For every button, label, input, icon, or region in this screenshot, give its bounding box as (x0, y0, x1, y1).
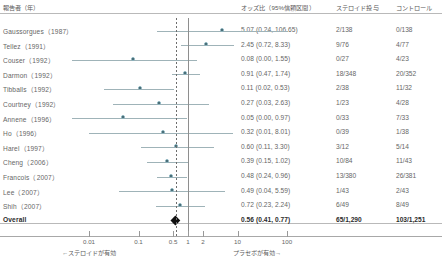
axis-tick-label: 0.01 (83, 238, 95, 245)
effect-marker (170, 188, 174, 192)
forest-plot: 報告者（年） オッズ比（95%信頼区間） ステロイド投与 コントロール Gaus… (0, 0, 442, 260)
odds-ratio-value: 0.27 (0.03, 2.63) (241, 99, 290, 106)
effect-marker (131, 57, 135, 61)
study-label: Ho（1996） (3, 128, 41, 138)
odds-ratio-value: 0.49 (0.04, 5.59) (241, 187, 290, 194)
axis-caption-right: プラセボが有効→ (233, 248, 281, 257)
odds-ratio-value: 5.07 (0.24, 106.65) (241, 26, 298, 33)
study-label: Shih（2007） (3, 201, 46, 211)
steroid-count: 1/23 (336, 99, 349, 106)
table-row: Harel（1997）0.60 (0.11, 3.30)3/125/14 (0, 141, 442, 155)
axis-tick (139, 231, 140, 237)
steroid-count: 2/38 (336, 84, 349, 91)
study-label: Lee（2007） (3, 187, 44, 197)
column-header-studies: 報告者（年） (3, 3, 40, 12)
effect-marker (169, 174, 173, 178)
table-row: Annene（1996）0.05 (0.00, 0.97)0/337/33 (0, 112, 442, 126)
odds-ratio-value: 0.72 (0.23, 2.24) (241, 201, 290, 208)
table-row: Gaussorgues（1987）5.07 (0.24, 106.65)2/13… (0, 24, 442, 38)
study-label: Overall (3, 216, 26, 223)
axis-caption-left: ←ステロイドが有効 (62, 248, 116, 257)
steroid-count: 2/138 (336, 26, 353, 33)
effect-marker (121, 115, 125, 119)
odds-ratio-value: 0.32 (0.01, 8.01) (241, 128, 290, 135)
axis-tick-label: 10 (234, 238, 241, 245)
study-label: Tellez（1991） (3, 41, 50, 51)
x-axis (0, 236, 442, 237)
effect-marker (138, 86, 142, 90)
axis-tick (89, 231, 90, 237)
control-count: 4/77 (396, 41, 409, 48)
control-count: 7/33 (396, 114, 409, 121)
confidence-interval-line (72, 118, 188, 119)
axis-tick-label: 0.5 (169, 238, 178, 245)
control-count: 5/14 (396, 143, 409, 150)
study-label: Cheng（2006） (3, 157, 53, 167)
table-row: Francois（2007）0.48 (0.24, 0.96)13/38026/… (0, 170, 442, 184)
header-divider (0, 13, 442, 14)
control-count: 20/352 (396, 70, 416, 77)
column-header-odds-ratio: オッズ比（95%信頼区間） (241, 3, 315, 12)
study-label: Harel（1997） (3, 143, 49, 153)
effect-marker (165, 159, 169, 163)
odds-ratio-value: 0.56 (0.41, 0.77) (241, 216, 290, 223)
steroid-count: 65/1,290 (336, 216, 362, 223)
steroid-count: 1/43 (336, 187, 349, 194)
odds-ratio-value: 0.08 (0.00, 1.55) (241, 55, 290, 62)
axis-tick (203, 231, 204, 237)
steroid-count: 9/76 (336, 41, 349, 48)
odds-ratio-value: 0.05 (0.00, 0.97) (241, 114, 290, 121)
table-row: Shih（2007）0.72 (0.23, 2.24)6/498/49 (0, 199, 442, 213)
effect-marker (220, 28, 224, 32)
odds-ratio-value: 0.91 (0.47, 1.74) (241, 70, 290, 77)
axis-tick-label: 0.1 (134, 238, 143, 245)
control-count: 0/138 (396, 26, 413, 33)
column-header-steroid: ステロイド投与 (336, 3, 379, 12)
control-count: 11/32 (396, 84, 412, 91)
axis-tick-label: 100 (282, 238, 292, 245)
axis-tick-label: 2 (201, 238, 204, 245)
odds-ratio-value: 0.39 (0.15, 1.02) (241, 157, 290, 164)
control-count: 8/49 (396, 201, 409, 208)
table-row: Darmon（1992）0.91 (0.47, 1.74)18/34820/35… (0, 68, 442, 82)
study-label: Courtney（1992） (3, 99, 61, 109)
table-row: Cheng（2006）0.39 (0.15, 1.02)10/8411/43 (0, 155, 442, 169)
table-row: Ho（1996）0.32 (0.01, 8.01)0/391/38 (0, 126, 442, 140)
summary-effect-line (176, 18, 177, 236)
control-count: 4/28 (396, 99, 409, 106)
study-label: Darmon（1992） (3, 70, 57, 80)
table-row: Tibballs（1992）0.11 (0.02, 0.53)2/3811/32 (0, 82, 442, 96)
study-label: Francois（2007） (3, 172, 59, 182)
control-count: 26/381 (396, 172, 416, 179)
steroid-count: 6/49 (336, 201, 349, 208)
axis-tick (188, 231, 189, 237)
control-count: 2/43 (396, 187, 409, 194)
control-count: 103/1,251 (396, 216, 425, 223)
effect-marker (178, 203, 182, 207)
forest-row-overall: Overall0.56 (0.41, 0.77)65/1,290103/1,25… (0, 214, 442, 228)
control-count: 4/23 (396, 55, 409, 62)
steroid-count: 10/84 (336, 157, 353, 164)
study-label: Couser（1992） (3, 55, 55, 65)
steroid-count: 0/33 (336, 114, 349, 121)
table-row: Lee（2007）0.49 (0.04, 5.59)1/432/43 (0, 185, 442, 199)
table-row: Couser（1992）0.08 (0.00, 1.55)0/274/23 (0, 53, 442, 67)
axis-tick (173, 231, 174, 237)
table-row: Tellez（1991）2.45 (0.72, 8.33)9/764/77 (0, 39, 442, 53)
odds-ratio-value: 0.11 (0.02, 0.53) (241, 84, 290, 91)
odds-ratio-value: 0.48 (0.24, 0.96) (241, 172, 290, 179)
odds-ratio-value: 2.45 (0.72, 8.33) (241, 41, 290, 48)
table-row: Courtney（1992）0.27 (0.03, 2.63)1/234/28 (0, 97, 442, 111)
study-label: Gaussorgues（1987） (3, 26, 73, 36)
control-count: 11/43 (396, 157, 412, 164)
axis-tick-label: 1 (186, 238, 189, 245)
null-effect-line (188, 18, 189, 236)
odds-ratio-value: 0.60 (0.11, 3.30) (241, 143, 290, 150)
study-label: Annene（1996） (3, 114, 56, 124)
control-count: 1/38 (396, 128, 409, 135)
axis-tick (238, 231, 239, 237)
effect-marker (157, 101, 161, 105)
effect-marker (161, 130, 165, 134)
axis-tick (287, 231, 288, 237)
study-label: Tibballs（1992） (3, 84, 56, 94)
